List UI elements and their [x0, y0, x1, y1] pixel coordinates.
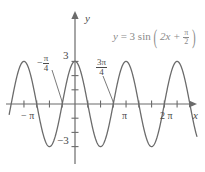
equation-inner-term: 2x +: [160, 30, 181, 42]
y-axis-label: y: [85, 13, 90, 24]
annotation-three-pi-over-4: 3π 4: [96, 58, 107, 78]
x-tick-label-2pi: 2 π: [160, 111, 173, 121]
y-axis: [71, 11, 78, 164]
annotation-fraction-neg-pi-4: π 4: [43, 54, 50, 74]
annotation-leader-line: [103, 76, 113, 102]
equation-phase-denominator: 2: [183, 37, 189, 46]
annotation-fraction-3pi-4: 3π 4: [96, 58, 107, 78]
y-tick-label-neg-3: −3: [57, 135, 69, 146]
y-tick-label-3: 3: [63, 50, 69, 61]
equation-phase-numerator: π: [183, 29, 189, 37]
annotation-leader-line: [52, 70, 62, 102]
equation-function: sin: [138, 30, 151, 42]
annotation-denominator: 4: [43, 63, 50, 73]
equation-amplitude: 3: [130, 30, 136, 42]
y-axis-arrowhead: [71, 11, 78, 19]
annotation-denominator: 4: [96, 67, 107, 77]
annotation-numerator: π: [43, 54, 50, 63]
equation-equals: =: [121, 30, 127, 42]
x-axis: [6, 100, 197, 107]
annotation-numerator: 3π: [96, 58, 107, 67]
x-tick-label-neg-pi: − π: [21, 111, 34, 121]
equation-label: y = 3 sin ( 2x + π 2 ): [113, 29, 196, 47]
x-tick-label-pi: π: [122, 111, 127, 121]
sine-graph-plot: [0, 0, 205, 172]
equation-lhs: y: [113, 30, 118, 42]
equation-open-paren: (: [153, 25, 157, 48]
x-axis-label: x: [193, 110, 198, 121]
figure-canvas: y = 3 sin ( 2x + π 2 ) y x − π π 2 π 3 −…: [0, 0, 205, 172]
equation-phase-fraction: π 2: [183, 29, 189, 47]
annotation-neg-pi-over-4: − π 4: [37, 54, 49, 74]
equation-close-paren: ): [192, 25, 196, 48]
